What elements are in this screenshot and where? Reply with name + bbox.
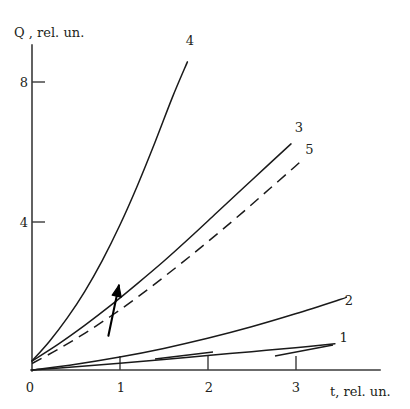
- x-tick-label-3: 3: [292, 380, 300, 395]
- curve-label-3: 3: [295, 120, 303, 135]
- curve-label-5: 5: [305, 142, 313, 157]
- curve-1: [32, 344, 335, 370]
- upward-arrow: [108, 285, 121, 335]
- x-tick-label-2: 2: [205, 380, 213, 395]
- chart-figure: 8 4 0 1 2 3 Q , rel. un. t, rel. un. 123…: [0, 0, 410, 409]
- axis-titles: Q , rel. un. t, rel. un.: [14, 25, 391, 399]
- curve-label-4: 4: [186, 33, 194, 48]
- curve-5: [32, 160, 302, 364]
- upward-arrow-head: [112, 285, 121, 297]
- x-tick-label-1: 1: [117, 380, 125, 395]
- data-series-layer: [32, 62, 346, 370]
- plot-axes: [31, 45, 380, 371]
- curve-label-1: 1: [340, 330, 348, 345]
- y-axis-title: Q , rel. un.: [14, 25, 84, 40]
- y-tick-label-4: 4: [20, 215, 28, 230]
- y-tick-label-8: 8: [20, 75, 28, 90]
- curve-3: [32, 144, 291, 361]
- x-tick-label-0: 0: [26, 380, 34, 395]
- curve-2: [32, 297, 346, 370]
- annotation-layer: [108, 285, 121, 335]
- x-axis-title: t, rel. un.: [330, 384, 391, 399]
- axis-tick-labels: 8 4 0 1 2 3: [20, 75, 300, 395]
- curve-label-2: 2: [345, 293, 353, 308]
